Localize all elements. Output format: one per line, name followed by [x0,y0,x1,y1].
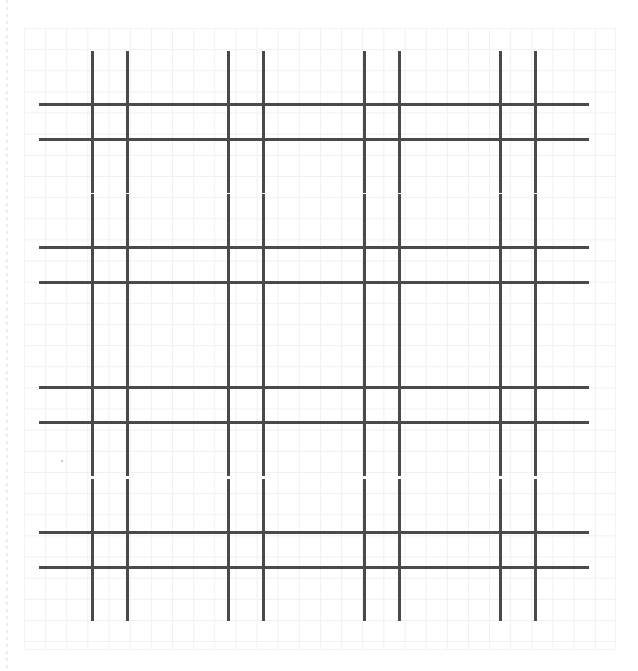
tic-tac-toe-grid-12[interactable] [447,334,589,476]
tic-tac-toe-strokes [39,51,181,193]
tic-tac-toe-grid-4[interactable] [447,51,589,193]
tic-tac-toe-grid-8[interactable] [447,194,589,336]
tic-tac-toe-grid-15[interactable] [311,479,453,621]
tic-tac-toe-strokes [39,479,181,621]
tic-tac-toe-strokes [175,194,317,336]
worksheet-page [0,0,638,671]
tic-tac-toe-grid-10[interactable] [175,334,317,476]
tic-tac-toe-strokes [447,194,589,336]
tic-tac-toe-strokes [311,334,453,476]
tic-tac-toe-strokes [175,479,317,621]
tic-tac-toe-grid-9[interactable] [39,334,181,476]
tic-tac-toe-grid-16[interactable] [447,479,589,621]
tic-tac-toe-grid-13[interactable] [39,479,181,621]
tic-tac-toe-grid-14[interactable] [175,479,317,621]
tic-tac-toe-strokes [39,334,181,476]
tic-tac-toe-strokes [447,51,589,193]
tic-tac-toe-strokes [447,334,589,476]
tic-tac-toe-strokes [311,479,453,621]
tic-tac-toe-grid-5[interactable] [39,194,181,336]
tic-tac-toe-grid-11[interactable] [311,334,453,476]
tic-tac-toe-figures-layer [0,0,638,671]
tic-tac-toe-strokes [175,51,317,193]
tic-tac-toe-strokes [311,51,453,193]
tic-tac-toe-grid-2[interactable] [175,51,317,193]
tic-tac-toe-strokes [175,334,317,476]
tic-tac-toe-grid-3[interactable] [311,51,453,193]
tic-tac-toe-strokes [311,194,453,336]
tic-tac-toe-strokes [39,194,181,336]
stray-pencil-dot [61,460,63,462]
tic-tac-toe-strokes [447,479,589,621]
tic-tac-toe-grid-7[interactable] [311,194,453,336]
tic-tac-toe-grid-1[interactable] [39,51,181,193]
tic-tac-toe-grid-6[interactable] [175,194,317,336]
